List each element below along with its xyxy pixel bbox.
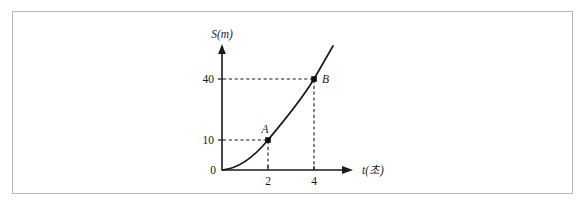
figure-container: S(m) t(초) 40 10 0 2 4 A B xyxy=(0,0,586,207)
graph-plot: S(m) t(초) 40 10 0 2 4 A B xyxy=(0,0,586,207)
curve-path xyxy=(222,46,333,170)
origin-label: 0 xyxy=(210,164,216,176)
data-point-b-marker xyxy=(311,76,317,82)
x-tick-label-4: 4 xyxy=(311,175,317,187)
data-point-a-marker xyxy=(265,137,271,143)
x-axis-label: t(초) xyxy=(362,164,384,177)
x-axis-arrow-icon xyxy=(342,166,353,174)
data-point-a-label: A xyxy=(260,123,269,135)
y-tick-label-40: 40 xyxy=(203,73,215,85)
x-tick-label-2: 2 xyxy=(265,175,271,187)
data-point-b-label: B xyxy=(322,73,329,85)
y-axis-arrow-icon xyxy=(218,44,226,54)
y-tick-label-10: 10 xyxy=(203,134,215,146)
y-axis-label: S(m) xyxy=(211,28,233,41)
